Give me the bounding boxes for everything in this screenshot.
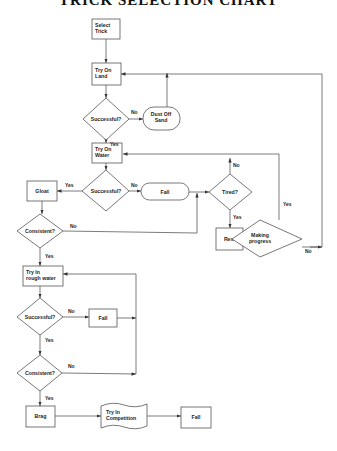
node-label: Fall	[192, 414, 201, 420]
flowchart: Select Trick Try On Land Successful? Dus…	[0, 0, 337, 451]
node-gloat: Gloat	[27, 181, 57, 201]
decision-label: Successful?	[91, 188, 122, 194]
node-label: Water	[95, 152, 109, 158]
decision-successful-rough: Successful?	[17, 298, 63, 335]
node-try-rough-water: Try In rough water	[23, 266, 63, 286]
edge-label-yes: Yes	[65, 182, 74, 188]
node-label: Sand	[155, 117, 168, 123]
node-label: Trick	[95, 28, 107, 34]
edge-label-no: No	[70, 223, 77, 229]
edge-label-yes: Yes	[110, 141, 119, 147]
node-fail-rough: Fall	[89, 309, 117, 327]
node-try-competition: Try In Competition	[101, 403, 147, 429]
edge-label-no: No	[68, 363, 75, 369]
edge-label-yes: Yes	[45, 253, 54, 259]
decision-label: Tired?	[222, 189, 238, 195]
edge-label-no: No	[131, 109, 138, 115]
edge-label-no: No	[233, 162, 240, 168]
decision-consistent-water: Consistent?	[17, 214, 63, 248]
decision-label: Consistent?	[25, 228, 55, 234]
node-dust-off-sand: Dust Off Sand	[143, 107, 180, 130]
decision-label: Consistent?	[25, 370, 55, 376]
node-label: Fall	[161, 189, 170, 195]
edge-label-no: No	[68, 308, 75, 314]
decision-successful-water: Successful?	[82, 170, 129, 211]
node-label: Competition	[106, 415, 136, 421]
edge-label-yes: Yes	[283, 201, 292, 207]
decision-label: progress	[249, 238, 271, 244]
edge-label-yes: Yes	[233, 214, 242, 220]
node-brag: Brag	[26, 406, 55, 427]
edge-label-no: No	[131, 182, 138, 188]
node-label: Fall	[99, 315, 108, 321]
node-try-on-land: Try On Land	[92, 63, 121, 85]
node-fail-competition: Fall	[181, 407, 211, 428]
node-label: Gloat	[35, 188, 49, 194]
edge-label-no: No	[305, 248, 312, 254]
decision-successful-land: Successful?	[83, 98, 129, 140]
decision-tired: Tired?	[209, 174, 252, 210]
decision-consistent-rough: Consistent?	[17, 355, 62, 391]
decision-label: Successful?	[25, 314, 56, 320]
node-label: Brag	[35, 413, 47, 419]
edge-label-yes: Yes	[45, 395, 54, 401]
node-label: rough water	[26, 275, 56, 281]
node-fail-water: Fall	[141, 183, 189, 200]
node-select-trick: Select Trick	[92, 19, 120, 39]
edge-label-yes: Yes	[45, 337, 54, 343]
node-label: Land	[95, 73, 107, 79]
decision-label: Successful?	[91, 116, 122, 122]
decision-making-progress: Making progress	[232, 220, 302, 257]
